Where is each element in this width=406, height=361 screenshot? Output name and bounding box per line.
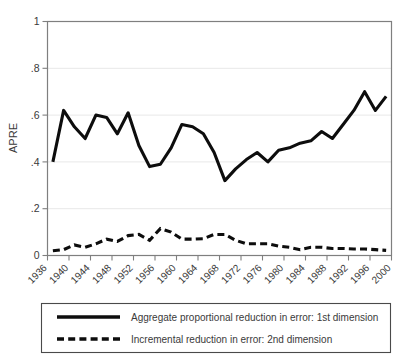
legend-box xyxy=(42,304,391,353)
y-axis-label: APRE xyxy=(7,123,19,153)
y-tick-label: .4 xyxy=(31,156,40,168)
legend-label-incremental: Incremental reduction in error: 2nd dime… xyxy=(131,334,332,345)
y-tick-label: 1 xyxy=(34,15,40,27)
y-tick-label: .6 xyxy=(31,109,40,121)
y-tick-label: .8 xyxy=(31,62,40,74)
y-tick-label: .2 xyxy=(31,202,40,214)
apre-line-chart: 0.2.4.6.81 19361940194419481952195619601… xyxy=(0,0,406,361)
legend-label-aggregate: Aggregate proportional reduction in erro… xyxy=(131,312,378,323)
y-tick-label: 0 xyxy=(34,249,40,261)
